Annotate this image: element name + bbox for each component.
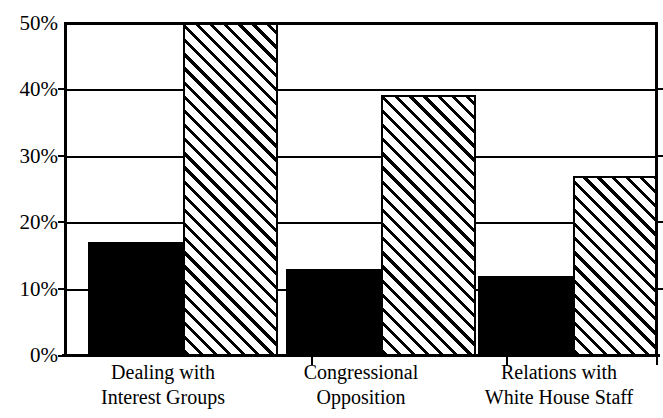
bar-solid-congressional-opposition xyxy=(286,269,381,356)
y-tick-label-30: 30% xyxy=(20,146,59,167)
x-category-label-2: Relations with White House Staff xyxy=(460,360,658,418)
x-category-label-1-line-0: Congressional xyxy=(262,360,460,385)
plot-area xyxy=(64,22,658,356)
bar-solid-relations-with-white-house-staff xyxy=(478,276,573,356)
bar-chart: 50% 40% 30% 20% 10% 0% Dealing wi xyxy=(0,0,663,418)
x-category-label-0-line-0: Dealing with xyxy=(64,360,262,385)
y-axis-labels: 50% 40% 30% 20% 10% 0% xyxy=(0,0,58,362)
x-category-label-1-line-1: Opposition xyxy=(262,385,460,410)
y-tick-label-40: 40% xyxy=(20,79,59,100)
y-tick-label-0: 0% xyxy=(30,345,58,366)
x-category-label-0-line-1: Interest Groups xyxy=(64,385,262,410)
x-axis-labels: Dealing with Interest Groups Congression… xyxy=(64,360,658,418)
y-tick-label-50: 50% xyxy=(20,13,59,34)
gridline-30 xyxy=(67,156,655,158)
x-category-label-1: Congressional Opposition xyxy=(262,360,460,418)
y-tick-label-10: 10% xyxy=(20,279,59,300)
bar-hatched-relations-with-white-house-staff xyxy=(573,176,658,356)
gridline-20 xyxy=(67,222,655,224)
y-tick-label-20: 20% xyxy=(20,212,59,233)
x-category-label-2-line-0: Relations with xyxy=(460,360,658,385)
bar-hatched-dealing-with-interest-groups xyxy=(183,22,278,356)
x-category-label-0: Dealing with Interest Groups xyxy=(64,360,262,418)
bar-solid-dealing-with-interest-groups xyxy=(88,242,183,356)
x-axis-line xyxy=(62,354,660,357)
bar-hatched-congressional-opposition xyxy=(381,95,476,356)
gridline-40 xyxy=(67,89,655,91)
x-category-label-2-line-1: White House Staff xyxy=(460,385,658,410)
